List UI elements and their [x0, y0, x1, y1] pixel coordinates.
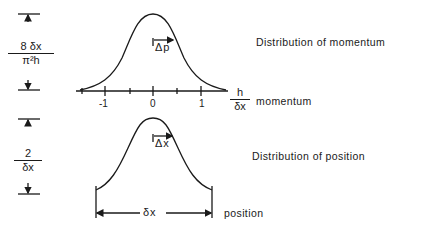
diagram-canvas [0, 0, 423, 233]
position-panel-title: Distribution of position [252, 150, 365, 162]
momentum-curve [80, 14, 226, 90]
momentum-panel-title: Distribution of momentum [256, 36, 385, 48]
momentum-axis-label: momentum [256, 95, 312, 107]
tick-minus-one: -1 [99, 98, 108, 109]
position-height-label: 2 δx [14, 147, 42, 174]
position-axis-label: position [224, 207, 263, 219]
tick-one: 1 [199, 98, 205, 109]
tick-zero: 0 [150, 98, 156, 109]
delta-p-label: Δp [155, 41, 170, 53]
momentum-axis [76, 86, 228, 96]
position-curve [96, 118, 212, 190]
momentum-height-label: 8 δx π²h [8, 40, 54, 67]
delta-x-label: Δx [155, 137, 170, 149]
position-span-label: δx [143, 206, 157, 218]
momentum-axis-unit: h δx [230, 86, 250, 113]
